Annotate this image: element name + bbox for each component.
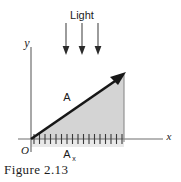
component-subscript: x bbox=[72, 155, 76, 162]
origin-label: O bbox=[21, 144, 29, 156]
physics-vector-diagram: Light y x O A A x bbox=[0, 0, 181, 182]
figure-caption: Figure 2.13 bbox=[4, 162, 68, 178]
svg-text:A: A bbox=[63, 148, 71, 160]
y-axis-label: y bbox=[23, 36, 30, 50]
vector-a-label: A bbox=[63, 91, 71, 103]
x-axis-label: x bbox=[166, 130, 172, 142]
light-ray-arrow-1 bbox=[63, 23, 70, 55]
light-ray-arrow-3 bbox=[95, 23, 102, 55]
light-ray-arrows bbox=[63, 23, 102, 55]
component-ax-label: A x bbox=[63, 148, 76, 162]
light-label: Light bbox=[70, 9, 94, 21]
figure-2-13: Light y x O A A x Figure 2.13 bbox=[0, 0, 181, 182]
light-ray-arrow-2 bbox=[79, 23, 86, 55]
